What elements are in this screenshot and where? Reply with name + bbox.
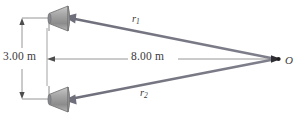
- label-ray-r2-subscript: 2: [144, 91, 148, 100]
- loudspeaker-bottom: [48, 86, 70, 112]
- label-ray-r2: r2: [140, 88, 148, 100]
- point-marker-o: [276, 57, 280, 61]
- speaker-back-bottom-icon: [68, 87, 70, 112]
- label-vertical-separation: 3.00 m: [3, 51, 36, 63]
- speaker-back-top-icon: [68, 6, 70, 31]
- ray-r2: [64, 59, 276, 104]
- observation-point-o: [271, 55, 281, 63]
- label-horizontal-distance: 8.00 m: [128, 51, 167, 63]
- speaker-cone-top-icon: [49, 6, 68, 31]
- ray-r1: [64, 14, 276, 59]
- arrowhead-down-icon: [19, 92, 24, 99]
- arrowhead-up-icon: [19, 18, 24, 25]
- speaker-cone-bottom-icon: [49, 87, 68, 112]
- arrowhead-left-icon: [47, 56, 55, 61]
- label-ray-r1-subscript: 1: [136, 17, 140, 26]
- label-observation-point: O: [285, 55, 293, 66]
- figure-container: 3.00 m 8.00 m r1 r2 O: [0, 0, 297, 117]
- loudspeaker-top: [48, 6, 70, 31]
- label-ray-r1: r1: [132, 14, 140, 26]
